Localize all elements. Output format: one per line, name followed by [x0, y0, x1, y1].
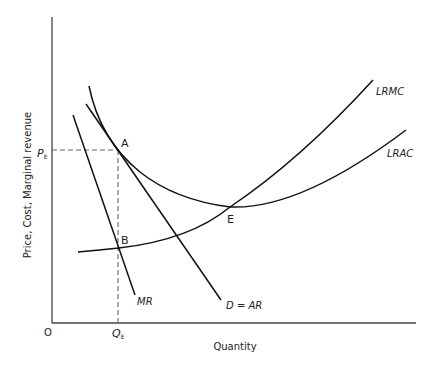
qe-label: QE — [112, 327, 125, 340]
qe-main: Q — [112, 327, 121, 340]
qe-sub: E — [121, 333, 125, 340]
pe-label: PE — [37, 147, 48, 160]
point-a-label: A — [121, 137, 129, 150]
lrac-curve — [89, 86, 406, 207]
demand-label: D = AR — [226, 300, 262, 311]
pe-sub: E — [44, 153, 48, 160]
y-axis-title: Price, Cost, Marginal revenue — [22, 112, 33, 259]
origin-label: O — [44, 327, 52, 338]
lrac-label: LRAC — [387, 148, 413, 159]
lrmc-curve — [78, 80, 373, 252]
point-e-label: E — [227, 213, 234, 226]
mr-label: MR — [137, 296, 153, 307]
point-b-label: B — [121, 234, 129, 247]
monopoly-cost-revenue-diagram: A B E LRMC LRAC MR D = AR O PE QE Quanti… — [0, 0, 435, 373]
lrmc-label: LRMC — [376, 86, 404, 97]
x-axis-title: Quantity — [213, 341, 256, 352]
